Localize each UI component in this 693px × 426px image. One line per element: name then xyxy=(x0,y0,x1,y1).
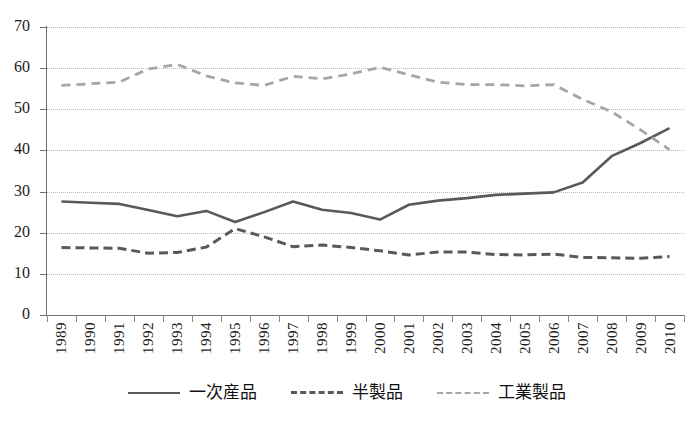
legend-item[interactable]: 工業製品 xyxy=(437,384,566,401)
series-line xyxy=(61,64,669,149)
legend-label: 工業製品 xyxy=(498,384,566,401)
data-series-layer xyxy=(0,0,693,426)
line-chart: 706050403020100 198919901991199219931994… xyxy=(0,0,693,426)
series-line xyxy=(61,128,669,222)
legend-label: 半製品 xyxy=(352,384,403,401)
legend-swatch-2 xyxy=(291,391,343,394)
chart-legend: 一次産品半製品工業製品 xyxy=(0,384,693,401)
series-line xyxy=(61,229,669,259)
legend-label: 一次産品 xyxy=(189,384,257,401)
legend-swatch-1 xyxy=(128,392,180,394)
legend-item[interactable]: 半製品 xyxy=(291,384,403,401)
legend-item[interactable]: 一次産品 xyxy=(128,384,257,401)
legend-swatch-3 xyxy=(437,392,489,394)
